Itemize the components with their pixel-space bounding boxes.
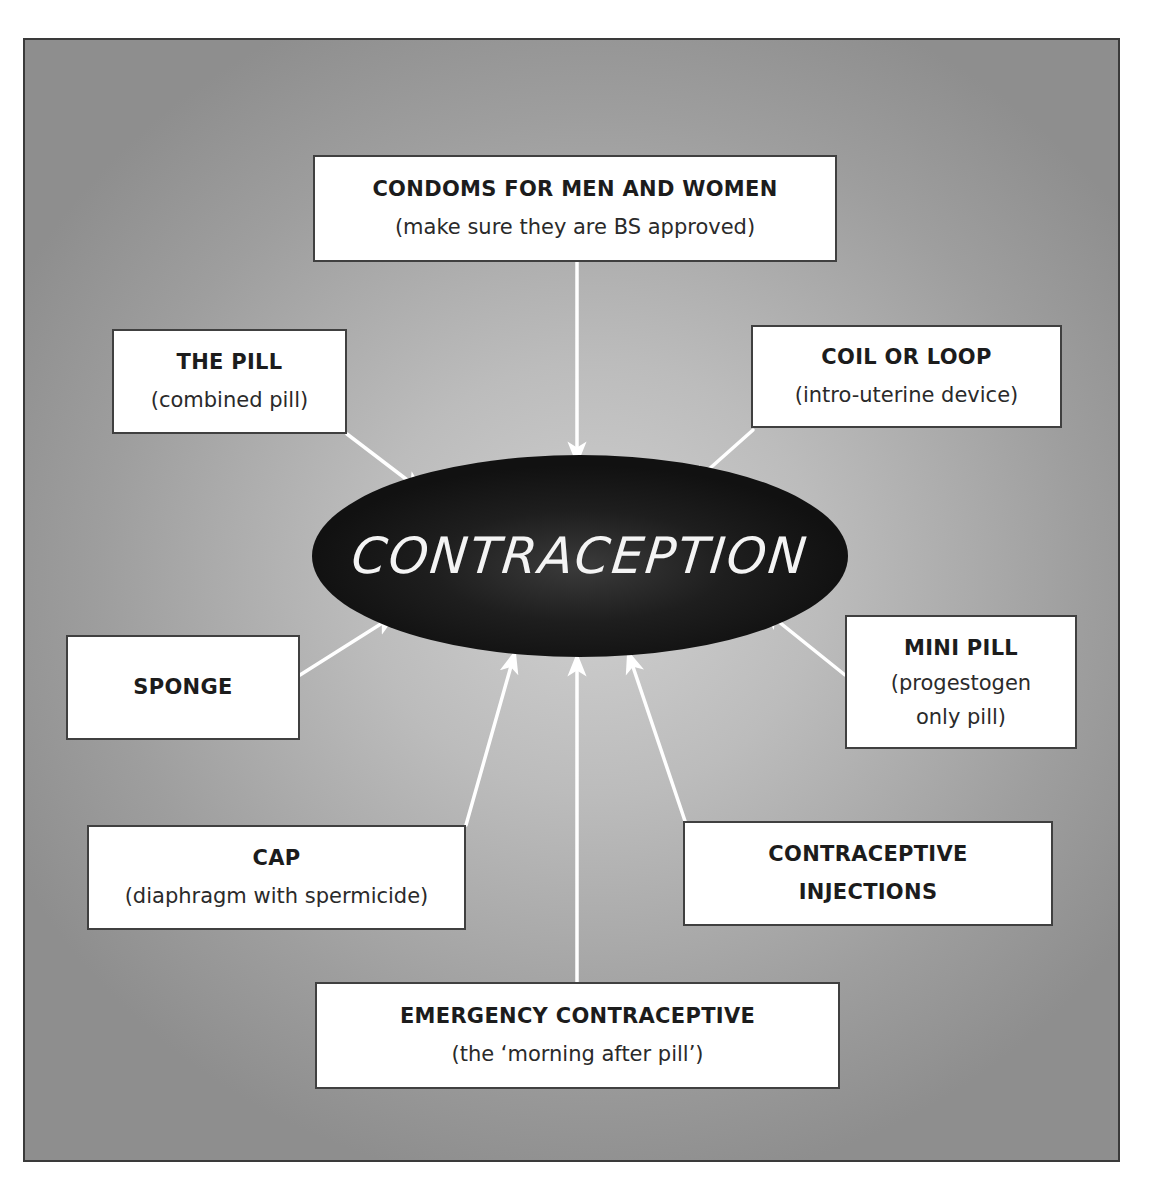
node-emergency: EMERGENCY CONTRACEPTIVE (the ‘morning af… xyxy=(315,982,840,1089)
node-subtitle: (combined pill) xyxy=(151,382,308,420)
node-injections: CONTRACEPTIVE INJECTIONS xyxy=(683,821,1053,926)
node-the-pill: THE PILL (combined pill) xyxy=(112,329,347,434)
node-condoms: CONDOMS FOR MEN AND WOMEN (make sure the… xyxy=(313,155,837,262)
node-title: COIL OR LOOP xyxy=(821,339,991,377)
node-title: SPONGE xyxy=(133,669,232,707)
node-title: EMERGENCY CONTRACEPTIVE xyxy=(400,998,755,1036)
node-subtitle: (diaphragm with spermicide) xyxy=(125,878,429,916)
node-title: MINI PILL xyxy=(904,630,1018,668)
node-subtitle: (the ‘morning after pill’) xyxy=(451,1036,703,1074)
node-title-line2: INJECTIONS xyxy=(799,874,938,912)
node-subtitle: (intro-uterine device) xyxy=(795,377,1019,415)
node-title: CONDOMS FOR MEN AND WOMEN xyxy=(372,171,777,209)
node-title: THE PILL xyxy=(177,344,283,382)
node-title-line1: CONTRACEPTIVE xyxy=(768,836,967,874)
center-node: CONTRACEPTION xyxy=(312,455,848,657)
node-sponge: SPONGE xyxy=(66,635,300,740)
node-cap: CAP (diaphragm with spermicide) xyxy=(87,825,466,930)
node-subtitle-line2: only pill) xyxy=(916,701,1006,735)
node-subtitle: (make sure they are BS approved) xyxy=(395,209,755,247)
node-mini-pill: MINI PILL (progestogen only pill) xyxy=(845,615,1077,749)
node-subtitle-line1: (progestogen xyxy=(891,667,1031,701)
center-label: CONTRACEPTION xyxy=(349,527,811,585)
node-coil: COIL OR LOOP (intro-uterine device) xyxy=(751,325,1062,428)
node-title: CAP xyxy=(253,840,301,878)
